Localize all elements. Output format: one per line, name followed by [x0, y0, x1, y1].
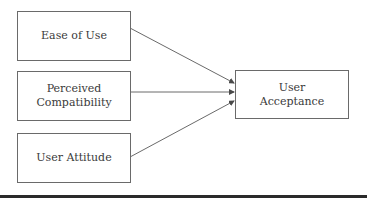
node-label-line2: Compatibility	[36, 96, 111, 110]
node-label: User Attitude	[36, 151, 111, 165]
arrow-ease-to-acceptance	[130, 28, 234, 83]
node-label-line1: Perceived	[47, 82, 102, 96]
arrow-attitude-to-acceptance	[130, 101, 234, 157]
node-ease-of-use: Ease of Use	[17, 11, 131, 61]
node-user-attitude: User Attitude	[17, 133, 131, 183]
node-label-line1: User	[279, 81, 306, 95]
node-user-acceptance: User Acceptance	[235, 70, 349, 119]
node-label: Ease of Use	[41, 29, 107, 43]
node-perceived-compatibility: Perceived Compatibility	[17, 71, 131, 121]
bottom-divider	[0, 195, 367, 198]
node-label-line2: Acceptance	[260, 95, 325, 109]
